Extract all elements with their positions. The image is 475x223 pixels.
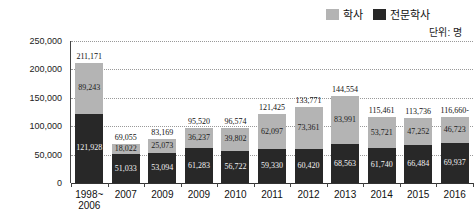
gridline bbox=[71, 98, 473, 99]
gridline bbox=[71, 69, 473, 70]
total-label: 133,771 bbox=[287, 96, 331, 105]
value-label-jeonmunhaksa: 59,330 bbox=[252, 161, 292, 170]
plot-area: 050,000100,000150,000200,000250,000121,9… bbox=[70, 41, 473, 183]
bar-2007: 51,03318,02269,055 bbox=[112, 144, 140, 183]
x-axis-tick bbox=[436, 183, 437, 187]
x-axis-label: 2011 bbox=[254, 189, 291, 200]
value-label-haksa: 39,802 bbox=[215, 134, 255, 143]
x-axis-label: 2012 bbox=[290, 189, 327, 200]
value-label-jeonmunhaksa: 60,420 bbox=[289, 161, 329, 170]
y-axis-tick-label: 250,000 bbox=[2, 36, 62, 46]
legend-item-jeonmunhaksa: 전문학사 bbox=[373, 6, 430, 22]
value-label-haksa: 18,022 bbox=[106, 144, 146, 153]
x-axis-label: 1998~2006 bbox=[71, 189, 108, 211]
value-label-jeonmunhaksa: 53,094 bbox=[142, 163, 182, 172]
legend: 학사 전문학사 bbox=[326, 6, 430, 22]
x-axis-tick bbox=[71, 183, 72, 187]
total-label: 96,574 bbox=[213, 117, 257, 126]
value-label-haksa: 83,991 bbox=[325, 115, 365, 124]
bar-2011: 59,33062,097121,425 bbox=[258, 114, 286, 183]
value-label-haksa: 89,243 bbox=[69, 83, 109, 92]
x-axis-tick bbox=[217, 183, 218, 187]
x-axis-label: 2013 bbox=[327, 189, 364, 200]
bar-2012: 60,42073,361133,771 bbox=[295, 107, 323, 183]
y-axis-tick-label: 50,000 bbox=[2, 150, 62, 160]
bar-2009: 61,28336,23795,520 bbox=[185, 128, 213, 183]
x-axis-label: 2016 bbox=[436, 189, 473, 200]
bar-2015: 66,48447,252113,736 bbox=[404, 118, 432, 183]
value-label-haksa: 73,361 bbox=[289, 123, 329, 132]
x-axis-tick bbox=[108, 183, 109, 187]
bar-1998~-2006: 121,92889,243211,171 bbox=[75, 63, 103, 183]
legend-item-haksa: 학사 bbox=[326, 6, 363, 22]
x-axis-label: 2009 bbox=[181, 189, 218, 200]
x-axis-tick bbox=[181, 183, 182, 187]
x-axis-label: 2015 bbox=[400, 189, 437, 200]
value-label-haksa: 62,097 bbox=[252, 127, 292, 136]
x-axis-label: 2010 bbox=[217, 189, 254, 200]
value-label-jeonmunhaksa: 56,722 bbox=[215, 162, 255, 171]
bar-2014: 61,74053,721115,461 bbox=[368, 117, 396, 183]
x-axis-tick bbox=[400, 183, 401, 187]
value-label-jeonmunhaksa: 68,563 bbox=[325, 159, 365, 168]
x-axis-tick bbox=[327, 183, 328, 187]
total-label: 83,169 bbox=[140, 128, 184, 137]
bar-2009: 53,09425,07383,169 bbox=[148, 139, 176, 183]
bar-2013: 68,56383,991144,554 bbox=[331, 96, 359, 183]
total-label: 211,171 bbox=[67, 52, 111, 61]
legend-label-haksa: 학사 bbox=[343, 6, 363, 22]
y-axis-tick-label: 200,000 bbox=[2, 64, 62, 74]
x-axis-tick bbox=[254, 183, 255, 187]
value-label-haksa: 47,252 bbox=[398, 127, 438, 136]
value-label-jeonmunhaksa: 61,283 bbox=[179, 161, 219, 170]
bar-2016: 69,93746,723116,660- bbox=[441, 117, 469, 183]
value-label-jeonmunhaksa: 69,937 bbox=[435, 158, 475, 167]
total-label: 116,660- bbox=[433, 106, 475, 115]
x-axis-label: 2007 bbox=[108, 189, 145, 200]
legend-label-jeonmunhaksa: 전문학사 bbox=[390, 6, 430, 22]
value-label-jeonmunhaksa: 121,928 bbox=[69, 143, 109, 152]
x-axis-label: 2014 bbox=[363, 189, 400, 200]
value-label-jeonmunhaksa: 51,033 bbox=[106, 164, 146, 173]
unit-label: 단위: 명 bbox=[429, 24, 462, 39]
x-axis-tick bbox=[290, 183, 291, 187]
gridline bbox=[71, 183, 473, 184]
legend-swatch-jeonmunhaksa bbox=[373, 9, 386, 20]
value-label-haksa: 25,073 bbox=[142, 141, 182, 150]
x-axis-tick bbox=[473, 183, 474, 187]
value-label-haksa: 53,721 bbox=[362, 128, 402, 137]
value-label-haksa: 36,237 bbox=[179, 133, 219, 142]
value-label-jeonmunhaksa: 66,484 bbox=[398, 159, 438, 168]
gridline bbox=[71, 41, 473, 42]
x-axis-tick bbox=[144, 183, 145, 187]
value-label-jeonmunhaksa: 61,740 bbox=[362, 160, 402, 169]
y-axis-tick-label: 100,000 bbox=[2, 121, 62, 131]
legend-swatch-haksa bbox=[326, 9, 339, 20]
stacked-bar-chart: 학사 전문학사 단위: 명 050,000100,000150,000200,0… bbox=[0, 0, 475, 223]
y-axis-tick-label: 150,000 bbox=[2, 93, 62, 103]
x-axis-label: 2009 bbox=[144, 189, 181, 200]
x-axis-tick bbox=[363, 183, 364, 187]
value-label-haksa: 46,723 bbox=[435, 125, 475, 134]
total-label: 144,554 bbox=[323, 85, 367, 94]
y-axis-tick-label: 0 bbox=[2, 178, 62, 188]
bar-2010: 56,72239,80296,574 bbox=[221, 128, 249, 183]
